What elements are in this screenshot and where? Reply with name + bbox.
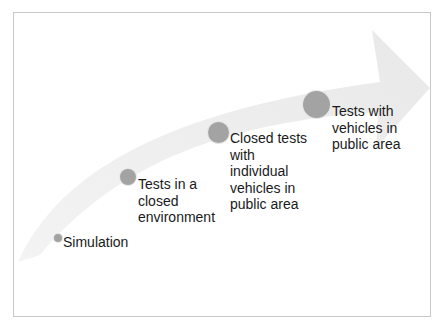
stage-dot-closed-environment <box>120 169 136 185</box>
label-line: environment <box>138 209 215 226</box>
label-line: Simulation <box>63 234 128 251</box>
label-line: Closed tests <box>230 130 307 147</box>
stage-label-closed-environment: Tests in a closed environment <box>138 176 215 226</box>
stage-dot-public-area <box>303 91 330 118</box>
label-line: individual <box>230 163 307 180</box>
label-line: vehicles in <box>230 180 307 197</box>
stage-label-closed-public: Closed tests with individual vehicles in… <box>230 130 307 213</box>
label-line: vehicles in <box>332 120 401 137</box>
label-line: Tests with <box>332 103 401 120</box>
stage-label-simulation: Simulation <box>63 234 128 251</box>
label-line: Tests in a <box>138 176 215 193</box>
label-line: public area <box>332 136 401 153</box>
label-line: with <box>230 147 307 164</box>
stage-label-public-area: Tests with vehicles in public area <box>332 103 401 153</box>
stage-dot-simulation <box>54 234 62 242</box>
label-line: closed <box>138 193 215 210</box>
curved-arrow-shape <box>0 0 441 330</box>
label-line: public area <box>230 196 307 213</box>
stage-dot-closed-public <box>208 122 229 143</box>
